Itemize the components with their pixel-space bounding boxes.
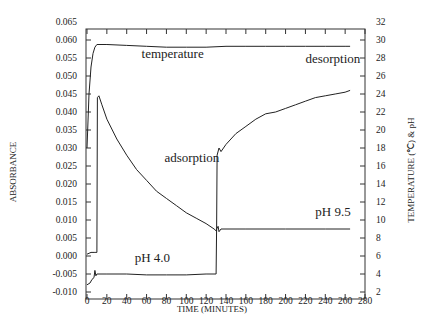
- y2-tick-label: 30: [376, 35, 386, 45]
- x-axis-title: TIME (MINUTES): [177, 304, 247, 314]
- x-tick-label: 40: [122, 296, 132, 306]
- y-tick-label: 0.005: [56, 233, 78, 243]
- y-tick-label: 0.015: [56, 197, 78, 207]
- y2-tick-label: 4: [376, 269, 381, 279]
- y-tick-label: 0.055: [56, 53, 78, 63]
- y2-tick-label: 18: [376, 143, 386, 153]
- x-tick-label: 80: [162, 296, 172, 306]
- y-tick-label: 0.030: [56, 143, 78, 153]
- x-tick-label: 180: [259, 296, 274, 306]
- y2-tick-label: 28: [376, 53, 386, 63]
- y2-tick-label: 6: [376, 251, 381, 261]
- annotation-label: pH 4.0: [135, 250, 170, 265]
- y-tick-label: 0.045: [56, 89, 78, 99]
- y-axis-title: ABSORBANCE: [8, 141, 18, 202]
- annotation-label: pH 9.5: [315, 204, 350, 219]
- y2-tick-label: 8: [376, 233, 381, 243]
- x-axis-ticks: 020406080100120140160180200220240260280: [85, 29, 373, 306]
- y2-axis-title: TEMPERATURE (℃) & pH: [406, 117, 416, 223]
- y2-tick-label: 22: [376, 107, 386, 117]
- y-tick-label: 0.060: [56, 35, 78, 45]
- plot-frame: [86, 29, 365, 299]
- y-tick-label: 0.035: [56, 125, 78, 135]
- x-tick-label: 20: [102, 296, 112, 306]
- y-tick-label: 0.020: [56, 179, 78, 189]
- y2-tick-label: 32: [376, 17, 386, 27]
- y-tick-label: -0.010: [52, 287, 77, 297]
- series-ph-line: [87, 226, 350, 284]
- x-tick-label: 60: [142, 296, 152, 306]
- x-tick-label: 200: [278, 296, 293, 306]
- series-lines: [87, 45, 350, 285]
- y-tick-label: 0.010: [56, 215, 78, 225]
- y2-tick-label: 16: [376, 161, 386, 171]
- y2-tick-label: 26: [376, 71, 386, 81]
- chart: 020406080100120140160180200220240260280 …: [0, 0, 425, 329]
- y2-tick-label: 2: [376, 287, 381, 297]
- y-tick-label: 0.050: [56, 71, 78, 81]
- y-tick-label: -0.005: [52, 269, 77, 279]
- y-tick-label: 0.025: [56, 161, 78, 171]
- y2-axis-ticks: 3230282624222018161412108642: [360, 17, 386, 297]
- annotations: temperaturedesorptionadsorptionpH 9.5pH …: [135, 46, 361, 265]
- annotation-label: desorption: [305, 51, 360, 66]
- y-tick-label: 0.000: [56, 251, 78, 261]
- y2-tick-label: 20: [376, 125, 386, 135]
- y2-tick-label: 24: [376, 89, 386, 99]
- y2-tick-label: 12: [376, 197, 386, 207]
- y-tick-label: 0.040: [56, 107, 78, 117]
- x-tick-label: 220: [298, 296, 313, 306]
- annotation-label: temperature: [142, 46, 204, 61]
- x-tick-label: 0: [85, 296, 90, 306]
- y2-tick-label: 10: [376, 215, 386, 225]
- x-tick-label: 260: [338, 296, 353, 306]
- x-tick-label: 280: [358, 296, 373, 306]
- y-axis-ticks: 0.0650.0600.0550.0500.0450.0400.0350.030…: [52, 17, 91, 297]
- y-tick-label: 0.065: [56, 17, 78, 27]
- y2-tick-label: 14: [376, 179, 386, 189]
- x-tick-label: 240: [318, 296, 333, 306]
- annotation-label: adsorption: [164, 150, 219, 165]
